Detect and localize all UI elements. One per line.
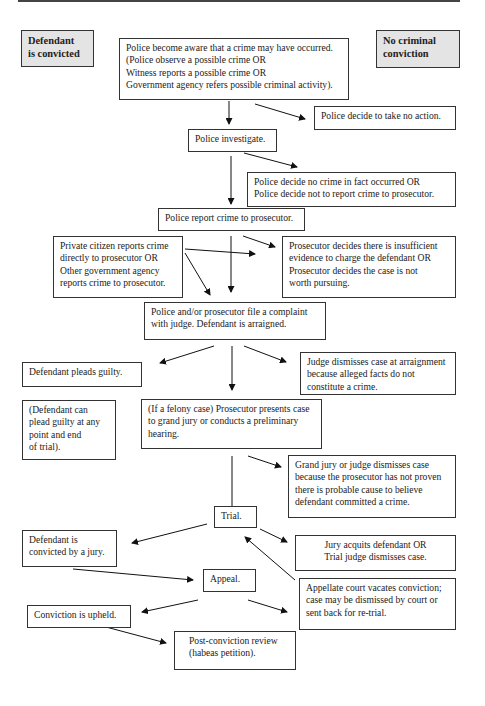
node-appeal: Appeal. [203, 569, 256, 592]
node-police-no-action: Police decide to take no action. [314, 106, 456, 130]
node-police-no-crime: Police decide no crime in fact occurred … [247, 172, 456, 207]
node-judge-dismisses-arraignment: Judge dismisses case at arraignment beca… [300, 352, 456, 395]
node-file-complaint: Police and/or prosecutor file a complain… [144, 302, 326, 340]
node-appellate-vacates: Appellate court vacates conviction; case… [299, 578, 456, 630]
node-trial: Trial. [214, 506, 257, 528]
node-defendant-pleads-guilty: Defendant pleads guilty. [22, 362, 142, 387]
node-private-citizen: Private citizen reports crime directly t… [53, 236, 183, 298]
node-grand-jury-dismisses: Grand jury or judge dismisses case becau… [288, 455, 456, 518]
legend-defendant-convicted: Defendant is convicted [21, 30, 94, 67]
node-prosecutor-insufficient: Prosecutor decides there is insufficient… [282, 236, 456, 298]
node-felony-grand-jury: (If a felony case) Prosecutor presents c… [141, 399, 322, 449]
node-convicted-by-jury: Defendant is convicted by a jury. [22, 530, 117, 567]
node-habeas-review: Post-conviction review (habeas petition)… [174, 631, 296, 670]
node-conviction-upheld: Conviction is upheld. [27, 605, 131, 628]
node-jury-acquits: Jury acquits defendant OR Trial judge di… [295, 535, 456, 571]
node-police-investigate: Police investigate. [188, 129, 277, 152]
node-police-report: Police report crime to prosecutor. [158, 208, 305, 231]
node-plead-guilty-note: (Defendant can plead guilty at any point… [22, 400, 116, 460]
legend-no-criminal-conviction: No criminal conviction [376, 30, 460, 68]
node-police-aware: Police become aware that a crime may hav… [119, 38, 349, 100]
